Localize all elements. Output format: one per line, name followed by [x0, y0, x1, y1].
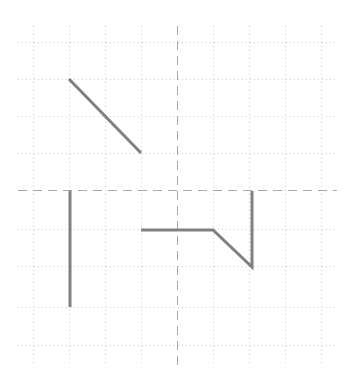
plot-container — [0, 0, 345, 383]
plot-canvas — [0, 0, 345, 383]
plot-background — [0, 0, 345, 383]
